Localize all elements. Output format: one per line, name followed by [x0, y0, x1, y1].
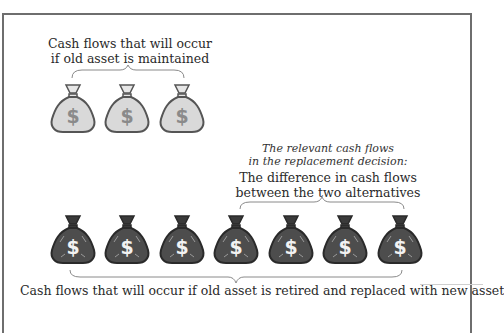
relevant-line1: The relevant cash flows [238, 142, 418, 155]
money-bag-icon: $ [376, 214, 424, 266]
relevant-line2: in the replacement decision: [238, 155, 418, 168]
difference-line1: The difference in cash flows [228, 170, 428, 185]
old-asset-label-line1: Cash flows that will occur [40, 36, 220, 51]
money-bag-icon: $ [158, 214, 206, 266]
money-bag-icon: $ [49, 83, 97, 135]
new-asset-label: Cash flows that will occur if old asset … [20, 283, 440, 298]
money-bag-icon: $ [267, 214, 315, 266]
money-bag-icon: $ [321, 214, 369, 266]
money-bag-icon: $ [49, 214, 97, 266]
new-asset-brace [68, 268, 404, 284]
svg-text:$: $ [338, 236, 351, 258]
svg-text:$: $ [393, 236, 406, 258]
svg-text:$: $ [120, 105, 133, 127]
svg-text:$: $ [66, 105, 79, 127]
old-asset-label: Cash flows that will occur if old asset … [40, 36, 220, 66]
money-bag-icon: $ [212, 214, 260, 266]
svg-text:$: $ [284, 236, 297, 258]
old-asset-brace [70, 64, 186, 80]
relevant-cash-flows-caption: The relevant cash flows in the replaceme… [238, 142, 418, 168]
svg-text:$: $ [175, 105, 188, 127]
svg-text:$: $ [120, 236, 133, 258]
money-bag-icon: $ [103, 83, 151, 135]
svg-text:$: $ [175, 236, 188, 258]
money-bag-icon: $ [158, 83, 206, 135]
svg-text:$: $ [229, 236, 242, 258]
money-bag-icon: $ [103, 214, 151, 266]
difference-brace [238, 196, 406, 210]
svg-text:$: $ [66, 236, 79, 258]
